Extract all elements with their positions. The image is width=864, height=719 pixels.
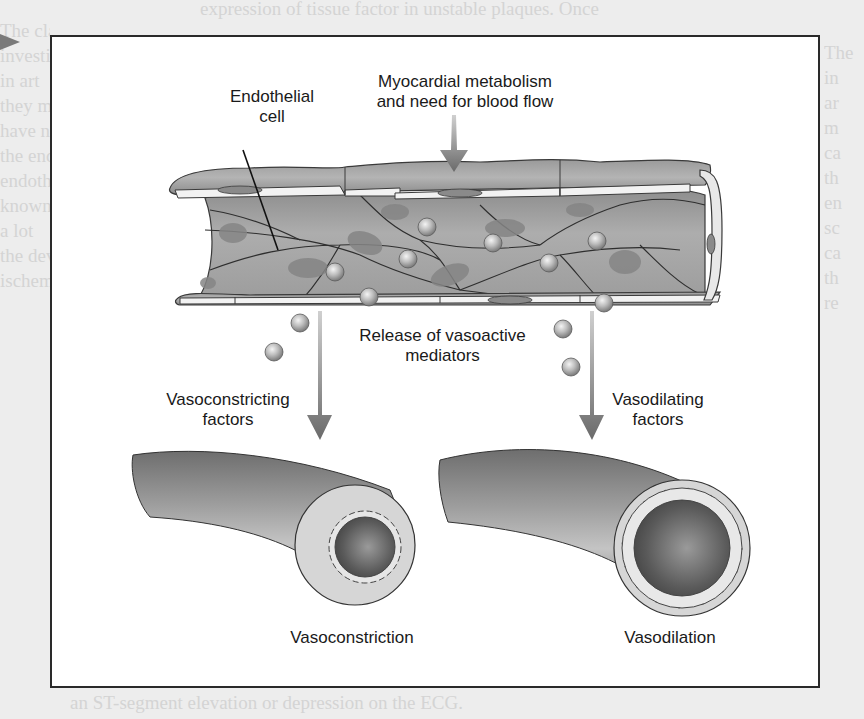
vasoconstricting-arrow-icon xyxy=(307,311,332,440)
endothelial-cell-label: Endothelialcell xyxy=(212,87,332,127)
myocardial-metabolism-label: Myocardial metabolismand need for blood … xyxy=(350,72,580,112)
vasoconstricting-factors-label: Vasoconstrictingfactors xyxy=(148,390,308,430)
constricted-vessel xyxy=(132,451,415,605)
release-of-mediators-label: Release of vasoactivemediators xyxy=(330,326,555,366)
dilated-vessel xyxy=(439,450,750,616)
vasoconstriction-label: Vasoconstriction xyxy=(262,628,442,648)
vasodilation-label: Vasodilation xyxy=(600,628,740,648)
vasodilating-factors-label: Vasodilatingfactors xyxy=(598,390,718,430)
